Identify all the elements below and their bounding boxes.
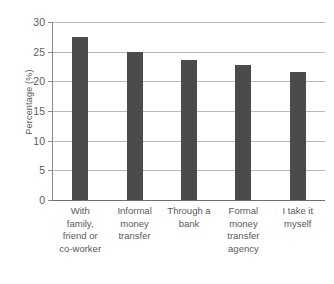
y-axis-tick-label: 20 <box>33 76 45 87</box>
y-axis-title: Percentage (%) <box>22 12 36 192</box>
x-axis-label: I take itmyself <box>273 205 323 230</box>
y-axis-tick <box>48 52 53 53</box>
x-axis-label: Through abank <box>164 205 214 230</box>
bar <box>290 72 306 200</box>
gridline <box>53 52 325 53</box>
plot-area: 051015202530 <box>53 22 325 200</box>
x-axis-label: Informalmoneytransfer <box>109 205 159 243</box>
y-axis-tick-label: 25 <box>33 46 45 57</box>
y-axis-tick-label: 30 <box>33 17 45 28</box>
y-axis-tick <box>48 111 53 112</box>
x-axis-label: Formalmoneytransferagency <box>218 205 268 255</box>
y-axis-tick <box>48 22 53 23</box>
x-axis-labels: Withfamily,friend orco-workerInformalmon… <box>53 205 325 283</box>
y-axis-tick-label: 5 <box>39 165 45 176</box>
gridline <box>53 200 325 201</box>
bar <box>181 60 197 200</box>
y-axis-tick-label: 0 <box>39 195 45 206</box>
y-axis-tick-label: 15 <box>33 106 45 117</box>
y-axis-tick <box>48 200 53 201</box>
x-axis-label: Withfamily,friend orco-worker <box>55 205 105 255</box>
gridline <box>53 22 325 23</box>
bar-chart: Percentage (%) 051015202530 Withfamily,f… <box>0 0 334 284</box>
bar <box>72 37 88 200</box>
y-axis-tick <box>48 81 53 82</box>
y-axis-tick-label: 10 <box>33 135 45 146</box>
y-axis-tick <box>48 170 53 171</box>
bar <box>235 65 251 200</box>
y-axis-tick <box>48 141 53 142</box>
bar <box>127 52 143 200</box>
